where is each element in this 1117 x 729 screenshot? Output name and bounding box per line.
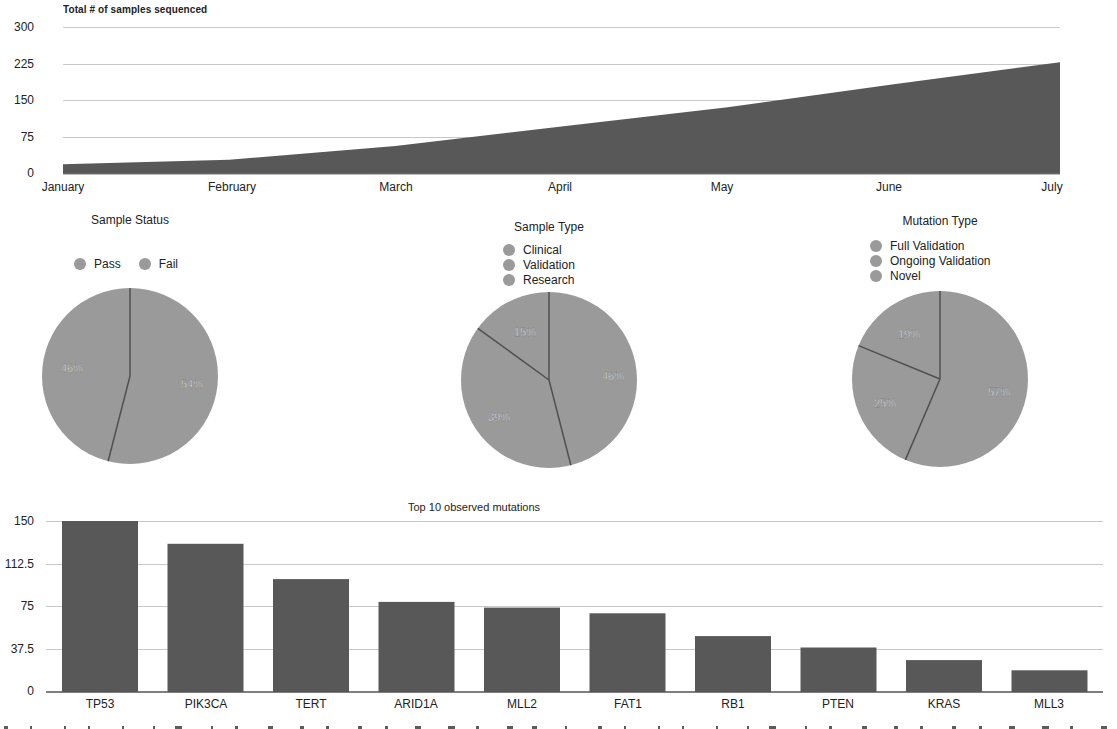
legend-label: Clinical: [523, 243, 562, 257]
bar: [590, 613, 666, 692]
pie-slice-label: 46%: [61, 362, 83, 374]
area-x-tick: January: [23, 180, 103, 194]
pie-legend: Full Validation Ongoing Validation Novel: [870, 238, 991, 283]
legend-dot-icon: [870, 240, 882, 252]
legend-dot-icon: [139, 258, 151, 270]
legend-dot-icon: [74, 258, 86, 270]
pie-slice-label: 39%: [488, 411, 510, 423]
bar-x-label: RB1: [683, 697, 783, 711]
area-x-tick: May: [682, 180, 762, 194]
pie-plot: 57% 25% 19%: [840, 279, 1040, 479]
area-series: [63, 62, 1060, 174]
pie-plot: 54% 46%: [30, 276, 230, 476]
legend-label: Fail: [159, 257, 178, 271]
bar: [379, 602, 455, 692]
pie-slice-label: 19%: [898, 328, 920, 340]
bar-x-label: ARID1A: [366, 697, 466, 711]
area-plot: [0, 0, 1117, 180]
bar-x-label: PIK3CA: [156, 697, 256, 711]
area-x-tick: February: [192, 180, 272, 194]
bar-plot: [0, 500, 1117, 700]
legend-item-ongoing-validation: Ongoing Validation: [870, 253, 991, 268]
legend-item-clinical: Clinical: [503, 242, 575, 257]
bar: [273, 579, 349, 692]
bar-x-label: MLL2: [472, 697, 572, 711]
pie-plot: 46% 39% 15%: [449, 280, 649, 480]
bar-x-label: TERT: [261, 697, 361, 711]
bar: [62, 521, 138, 692]
legend-label: Full Validation: [890, 239, 964, 253]
bar: [906, 660, 982, 692]
legend-label: Validation: [523, 258, 575, 272]
pie-slice-label: 57%: [988, 386, 1010, 398]
legend-dot-icon: [870, 255, 882, 267]
bar-x-label: MLL3: [999, 697, 1099, 711]
legend-dot-icon: [503, 259, 515, 271]
pie-slice-label: 15%: [514, 326, 536, 338]
bar-x-label: FAT1: [578, 697, 678, 711]
pie-title: Sample Type: [449, 220, 649, 234]
bar: [1012, 670, 1088, 692]
pie-legend: Pass Fail: [74, 256, 178, 271]
bar: [695, 636, 771, 692]
pie-title: Mutation Type: [840, 214, 1040, 228]
legend-item-full-validation: Full Validation: [870, 238, 991, 253]
legend-item-validation: Validation: [503, 257, 575, 272]
legend-label: Pass: [94, 257, 121, 271]
area-x-tick: July: [1012, 180, 1092, 194]
pie-title: Sample Status: [30, 213, 230, 227]
legend-item-pass: Pass: [74, 256, 121, 271]
legend-item-fail: Fail: [139, 256, 178, 271]
clipped-caption-glyphs: [0, 723, 1117, 729]
area-x-tick: March: [356, 180, 436, 194]
bar-x-label: KRAS: [894, 697, 994, 711]
area-x-tick: April: [520, 180, 600, 194]
pie-slice-label: 25%: [874, 397, 896, 409]
pie-slice-label: 54%: [181, 378, 203, 390]
pie-slice-label: 46%: [602, 370, 624, 382]
legend-label: Ongoing Validation: [890, 254, 991, 268]
bar-x-label: TP53: [50, 697, 150, 711]
bar: [484, 608, 560, 692]
legend-dot-icon: [503, 244, 515, 256]
area-x-tick: June: [849, 180, 929, 194]
clipped-caption: [0, 719, 1117, 729]
bar: [801, 648, 877, 693]
bar: [168, 544, 244, 692]
bar-x-label: PTEN: [788, 697, 888, 711]
